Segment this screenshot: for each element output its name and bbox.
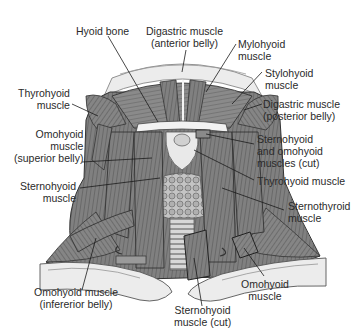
label-digastric-posterior-belly: Digastric muscle (posterior belly): [263, 98, 340, 122]
label-sternohyoid-muscle-cut: Sternohyoid muscle (cut): [174, 304, 231, 328]
label-thyrohyoid-muscle-left: Thyrohyoid muscle: [18, 87, 70, 111]
label-sternohyoid-omohyoid-cut: Sternohyoid and omohyoid muscles (cut): [257, 133, 323, 169]
label-hyoid-bone: Hyoid bone: [76, 25, 129, 37]
label-omohyoid-superior-belly: Omohyoid muscle (superior belly): [14, 128, 83, 164]
sternohyoid-left: [134, 132, 164, 268]
label-thyrohyoid-muscle-right: Thyrohyoid muscle: [257, 175, 345, 187]
label-digastric-anterior-belly: Digastric muscle (anterior belly): [146, 25, 223, 49]
thyroid-gland: [160, 173, 204, 220]
label-sternohyoid-muscle-left: Sternohyoid muscle: [20, 180, 76, 204]
sternohyoid-cut-stump: [184, 230, 210, 280]
label-sternothyroid-muscle: Sternothyroid muscle: [288, 200, 350, 224]
label-mylohyoid-muscle: Mylohyoid muscle: [238, 38, 285, 62]
label-stylohyoid-muscle: Stylohyoid muscle: [265, 67, 313, 91]
label-omohyoid-inferior-belly: Omohyoid muscle (infererior belly): [34, 286, 118, 310]
label-omohyoid-muscle-right: Omohyoid muscle: [241, 278, 289, 302]
